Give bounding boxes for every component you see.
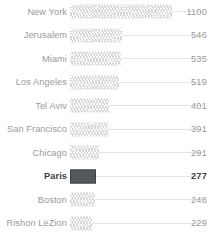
value-label: 248	[191, 194, 207, 205]
category-label: Tel Aviv	[0, 100, 67, 111]
bar	[70, 193, 95, 207]
bar-track	[70, 122, 207, 137]
value-label: 535	[191, 53, 207, 64]
bar-row: New York1100	[0, 0, 211, 24]
bar	[70, 52, 121, 66]
bar-row: Jerusalem546	[0, 24, 211, 48]
bar	[70, 99, 109, 113]
bar-row: Boston248	[0, 188, 211, 212]
bar-track	[70, 28, 207, 43]
value-connector-line	[95, 199, 203, 200]
bar-track	[70, 192, 207, 207]
value-connector-line	[99, 152, 203, 153]
bar-row: Los Angeles519	[0, 71, 211, 95]
category-label: San Francisco	[0, 124, 67, 135]
value-connector-line	[92, 223, 203, 224]
value-label: 401	[191, 100, 207, 111]
bar	[70, 75, 119, 89]
bar-row: Paris277	[0, 165, 211, 189]
category-label: New York	[0, 6, 67, 17]
bar	[70, 146, 99, 160]
bar-track	[70, 145, 207, 160]
value-label: 519	[191, 77, 207, 88]
value-label: 229	[191, 218, 207, 229]
bar-row: Rishon LeZion229	[0, 212, 211, 236]
category-label: Paris	[0, 171, 67, 182]
value-connector-line	[96, 176, 203, 177]
value-label: 546	[191, 30, 207, 41]
category-label: Chicago	[0, 147, 67, 158]
bar-row: Tel Aviv401	[0, 94, 211, 118]
bar	[70, 28, 122, 42]
bar-track	[70, 98, 207, 113]
bar-row: San Francisco391	[0, 118, 211, 142]
bar	[70, 216, 92, 230]
bar	[70, 122, 108, 136]
bar-track	[70, 75, 207, 90]
category-label: Los Angeles	[0, 77, 67, 88]
horizontal-bar-chart: New York1100Jerusalem546Miami535Los Ange…	[0, 0, 211, 235]
value-label: 291	[191, 147, 207, 158]
category-label: Rishon LeZion	[0, 218, 67, 229]
bar-row: Miami535	[0, 47, 211, 71]
value-connector-line	[108, 129, 203, 130]
category-label: Jerusalem	[0, 30, 67, 41]
value-connector-line	[109, 105, 203, 106]
category-label: Boston	[0, 194, 67, 205]
bar	[70, 5, 172, 19]
value-label: 1100	[186, 6, 207, 17]
value-label: 277	[191, 171, 207, 182]
category-label: Miami	[0, 53, 67, 64]
bar-highlighted	[70, 169, 96, 183]
value-label: 391	[191, 124, 207, 135]
bar-track	[70, 216, 207, 231]
bar-track	[70, 169, 207, 184]
bar-row: Chicago291	[0, 141, 211, 165]
bar-track	[70, 51, 207, 66]
